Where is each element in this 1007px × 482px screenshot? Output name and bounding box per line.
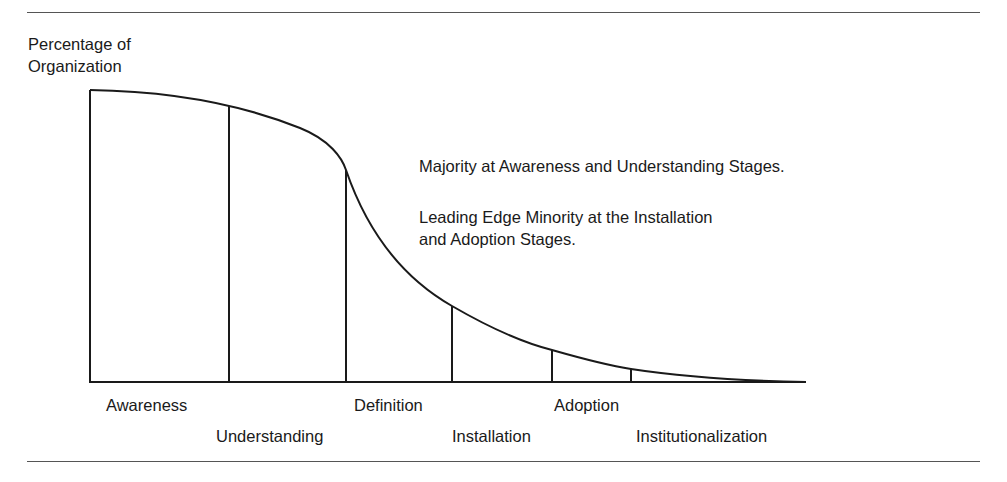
- note-majority: Majority at Awareness and Understanding …: [419, 155, 785, 177]
- bottom-rule: [27, 461, 980, 462]
- note-minority-line1: Leading Edge Minority at the Installatio…: [419, 206, 713, 228]
- stage-installation: Installation: [452, 426, 531, 446]
- note-minority-line2: and Adoption Stages.: [419, 228, 713, 250]
- stage-adoption: Adoption: [554, 395, 619, 415]
- note-minority: Leading Edge Minority at the Installatio…: [419, 206, 713, 250]
- stage-understanding: Understanding: [216, 426, 323, 446]
- stage-definition: Definition: [354, 395, 423, 415]
- stage-institutionalization: Institutionalization: [636, 426, 767, 446]
- stage-awareness: Awareness: [106, 395, 187, 415]
